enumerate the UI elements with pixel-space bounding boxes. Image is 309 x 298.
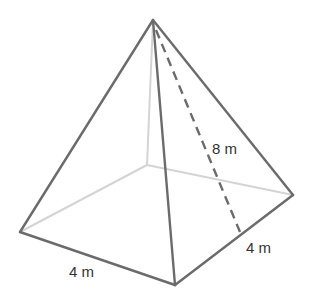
slant-height-label: 8 m (212, 140, 237, 157)
edge-apex-front (153, 20, 175, 285)
edge-apex-left (20, 20, 153, 232)
hidden-edge-left-back (20, 165, 147, 232)
hidden-edge-apex-back (147, 20, 153, 165)
square-pyramid-diagram: 8 m 4 m 4 m (0, 0, 309, 298)
base-edge-front-right (175, 195, 293, 285)
right-base-edge-label: 4 m (246, 239, 271, 256)
left-base-edge-label: 4 m (69, 263, 94, 280)
edge-apex-right (153, 20, 293, 195)
base-edge-left-front (20, 232, 175, 285)
